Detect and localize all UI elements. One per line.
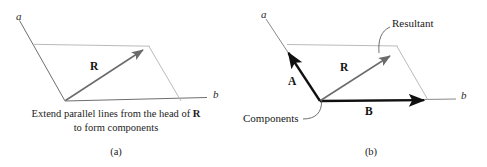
panel-a-resultant-vector: [66, 50, 144, 101]
panel-b-component-b-label: B: [365, 106, 373, 118]
panel-b-component-b-vector: [320, 100, 424, 101]
panel-b-resultant-leader: [379, 27, 390, 53]
panel-a-axis-a-line: [20, 21, 66, 102]
panel-a-graphics: [20, 21, 208, 102]
panel-b-resultant-label: R: [340, 62, 348, 74]
panel-b-graphics: [266, 19, 456, 119]
panel-a-resultant-label: R: [90, 61, 98, 73]
panel-a-axis-b-line: [65, 98, 207, 102]
panel-b-resultant-callout: Resultant: [392, 18, 434, 29]
vector-components-figure: a b R Extend parallel lines from the hea…: [0, 0, 487, 167]
panel-b-component-a-label: A: [288, 76, 296, 88]
panel-a-construction-parallel-b: [33, 44, 150, 46]
panel-a-construction-parallel-a: [149, 47, 181, 102]
panel-a-caption-line-1-text: Extend parallel lines from the head of: [32, 108, 193, 119]
panel-b-components-callout: Components: [243, 113, 299, 124]
panel-a-caption-line-2: to form components: [0, 123, 232, 134]
panel-a-caption-line-1-vector: R: [193, 108, 201, 119]
panel-a-caption-line-1: Extend parallel lines from the head of R: [0, 109, 232, 120]
panel-a-tag: (a): [0, 147, 232, 158]
panel-b-resultant-vector: [321, 56, 391, 101]
panel-b-construction-parallel-b: [287, 45, 398, 47]
panel-a-axis-a-label: a: [16, 11, 22, 22]
panel-b-axis-b-label: b: [461, 90, 467, 101]
panel-a-axis-b-label: b: [213, 89, 219, 100]
panel-b-axis-a-label: a: [261, 9, 267, 20]
panel-b-construction-parallel-a: [397, 47, 428, 101]
panel-b-tag: (b): [255, 147, 487, 158]
panel-b-components-leader: [303, 101, 322, 119]
